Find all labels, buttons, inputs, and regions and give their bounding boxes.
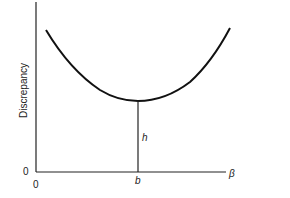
y-axis-label: Discrepancy [18,63,29,118]
discrepancy-diagram: Discrepancy 0 0 b h β [0,0,290,198]
x-origin-label: 0 [33,179,39,190]
x-axis-label: β [228,168,235,179]
discrepancy-curve [46,28,230,101]
h-label: h [142,132,148,143]
y-origin-label: 0 [23,166,29,177]
b-label: b [135,175,141,186]
